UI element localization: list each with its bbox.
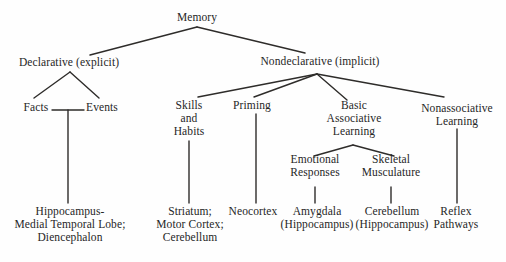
node-reflex-pathways: Reflex Pathways: [434, 205, 479, 231]
node-hippocampus-mtl: Hippocampus- Medial Temporal Lobe; Dienc…: [15, 205, 126, 244]
node-priming: Priming: [233, 99, 271, 112]
node-skeletal-musculature: Skeletal Musculature: [362, 153, 421, 179]
node-nondeclarative: Nondeclarative (implicit): [260, 55, 379, 68]
node-skills-habits: Skills and Habits: [174, 99, 205, 138]
edge-memory-nondeclarative: [197, 27, 305, 53]
edge-nondeclarative-basic: [317, 74, 347, 100]
node-nonassociative: Nonassociative Learning: [421, 102, 493, 128]
node-striatum: Striatum; Motor Cortex; Cerebellum: [156, 205, 223, 244]
memory-taxonomy-diagram: Memory Declarative (explicit) Nondeclara…: [0, 0, 506, 262]
edge-declarative-events: [70, 72, 99, 98]
node-basic-associative: Basic Associative Learning: [327, 99, 382, 138]
node-emotional-responses: Emotional Responses: [290, 153, 339, 179]
edge-nondeclarative-priming: [254, 74, 317, 97]
node-cerebellum: Cerebellum (Hippocampus): [356, 205, 429, 231]
edge-nondeclarative-nonassoc: [317, 74, 444, 97]
node-declarative: Declarative (explicit): [19, 56, 119, 69]
node-memory: Memory: [177, 11, 217, 24]
edge-memory-declarative: [90, 27, 197, 55]
node-neocortex: Neocortex: [229, 205, 278, 218]
node-events: Events: [86, 101, 118, 114]
edge-declarative-facts: [34, 72, 70, 98]
node-amygdala: Amygdala (Hippocampus): [281, 205, 354, 231]
edge-nondeclarative-skills: [198, 74, 317, 97]
node-facts: Facts: [24, 101, 49, 114]
